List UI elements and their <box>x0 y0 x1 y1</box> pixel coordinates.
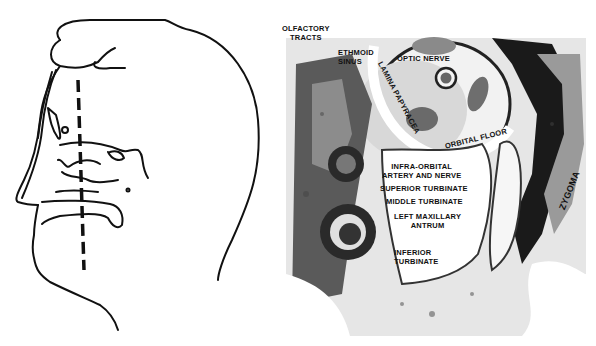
label-inferior-line1: INFERIOR <box>394 248 439 257</box>
coronal-histology-section: OLFACTORY TRACTS ETHMOID SINUS LAMINA PA… <box>282 24 586 336</box>
label-olfactory-tracts: OLFACTORY TRACTS <box>282 24 330 42</box>
label-ethmoid-sinus: ETHMOID SINUS <box>338 48 374 66</box>
head-outline-illustration <box>0 0 280 346</box>
label-maxillary-line1: LEFT MAXILLARY <box>394 212 461 221</box>
histology-image <box>282 24 586 336</box>
label-middle-turbinate: MIDDLE TURBINATE <box>386 197 463 206</box>
label-ethmoid-line1: ETHMOID <box>338 48 374 57</box>
label-infra-orbital-line2: ARTERY AND NERVE <box>382 171 461 180</box>
label-superior-turbinate: SUPERIOR TURBINATE <box>380 184 468 193</box>
label-infra-orbital: INFRA-ORBITAL ARTERY AND NERVE <box>382 162 461 180</box>
label-inferior-turbinate: INFERIOR TURBINATE <box>394 248 439 266</box>
label-ethmoid-line2: SINUS <box>338 57 374 66</box>
label-olfactory-line2: TRACTS <box>282 33 330 42</box>
label-infra-orbital-line1: INFRA-ORBITAL <box>382 162 461 171</box>
label-maxillary-line2: ANTRUM <box>394 221 461 230</box>
label-optic-nerve: OPTIC NERVE <box>397 54 450 63</box>
label-inferior-line2: TURBINATE <box>394 257 439 266</box>
label-olfactory-line1: OLFACTORY <box>282 24 330 33</box>
head-profile-drawing <box>0 0 280 346</box>
label-left-maxillary-antrum: LEFT MAXILLARY ANTRUM <box>394 212 461 230</box>
section-plane-line <box>78 80 84 270</box>
